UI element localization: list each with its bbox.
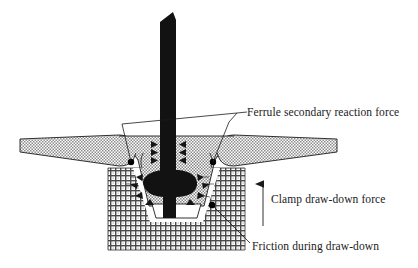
engineering-diagram <box>0 0 418 268</box>
label-ferrule-secondary-reaction-force: Ferrule secondary reaction force <box>247 106 399 118</box>
bolt-bulge <box>143 170 197 197</box>
figure-canvas: Ferrule secondary reaction force Clamp d… <box>0 0 418 268</box>
label-friction-during-draw-down: Friction during draw-down <box>252 240 379 252</box>
ferrule-cavity <box>152 204 201 218</box>
label-clamp-draw-down-force: Clamp draw-down force <box>271 193 386 205</box>
ferrule-base-right-corner <box>209 202 215 208</box>
bolt <box>143 12 197 218</box>
